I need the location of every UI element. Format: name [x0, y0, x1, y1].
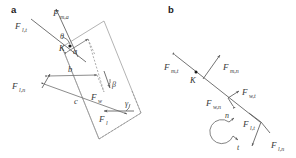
panel-a-group: a F l,t F m,a θ K a b c F — [11, 4, 141, 139]
label-fma-base: F — [52, 8, 59, 18]
label-force-flt-a: F l,t — [14, 21, 27, 33]
label-fw-base: F — [90, 92, 97, 102]
axis-arrow-n — [229, 118, 234, 122]
label-flt-a-sub: l,t — [22, 27, 27, 33]
joint-point-k-b — [195, 71, 198, 74]
label-point-k-b: K — [189, 75, 197, 85]
axis-convention-arc — [210, 120, 233, 144]
label-angle-gamma: γ — [125, 99, 129, 108]
force-arrow-flt-b — [249, 113, 261, 122]
label-fmt-base: F — [163, 62, 170, 72]
label-force-fln-a: F l,n — [11, 81, 25, 93]
label-angle-beta: β — [111, 80, 116, 89]
label-force-fl: F l — [98, 114, 108, 126]
lever-arm-b-line — [48, 75, 97, 76]
label-fwn-base: F — [205, 98, 212, 108]
panel-label-b: b — [168, 4, 174, 15]
label-flt-b-base: F — [242, 119, 249, 129]
panel-b-group: b F m,t K F m,n F w,t F w,n — [163, 4, 284, 152]
label-fma-sub: m,a — [60, 14, 69, 20]
label-fwn-sub: w,n — [213, 104, 221, 110]
label-axis-t: t — [237, 143, 240, 152]
figure-root: a F l,t F m,a θ K a b c F — [0, 0, 296, 158]
label-arm-a: a — [73, 46, 77, 56]
label-angle-theta: θ — [60, 32, 64, 41]
axis-arrow-t — [233, 136, 238, 140]
force-arrow-fwt — [228, 91, 239, 98]
lever-arm-b-tick — [97, 75, 104, 92]
label-point-k-a: K — [58, 43, 66, 53]
label-force-fwt: F w,t — [241, 87, 256, 99]
label-fwt-sub: w,t — [249, 93, 256, 99]
label-force-fw: F w — [90, 92, 102, 104]
lever-arm-a-tick — [88, 39, 95, 55]
label-fwt-base: F — [241, 87, 248, 97]
label-fln-a-base: F — [11, 81, 18, 91]
label-fmt-sub: m,t — [171, 68, 179, 74]
label-axis-n: n — [225, 111, 229, 120]
label-arm-b: b — [68, 64, 72, 74]
label-force-fwn: F w,n — [205, 98, 221, 110]
force-tick-fln-b — [261, 122, 270, 133]
label-fmn-sub: m,n — [230, 68, 239, 74]
label-fln-a-sub: l,n — [19, 87, 25, 93]
axis-line-upper-b — [175, 55, 203, 77]
label-force-fmn: F m,n — [222, 62, 239, 74]
label-force-fma: F m,a — [52, 8, 69, 20]
label-fw-sub: w — [98, 98, 102, 104]
label-fln-b-base: F — [270, 140, 277, 150]
label-arm-c: c — [74, 96, 78, 106]
label-fmn-base: F — [222, 62, 229, 72]
joint-point-k-a — [68, 44, 71, 47]
panel-label-a: a — [11, 4, 17, 15]
label-fl-sub: l — [106, 120, 108, 126]
label-fln-b-sub: l,n — [278, 146, 284, 152]
label-flt-b-sub: l,t — [250, 125, 255, 131]
label-fl-base: F — [98, 114, 105, 124]
label-force-fln-b: F l,n — [270, 140, 284, 152]
lever-arm-b-guide — [88, 39, 104, 92]
figure-svg: a F l,t F m,a θ K a b c F — [0, 0, 296, 158]
label-force-flt-b: F l,t — [242, 119, 255, 131]
force-arrow-fmn — [203, 55, 220, 79]
label-flt-a-base: F — [14, 21, 21, 31]
label-force-fmt: F m,t — [163, 62, 179, 74]
